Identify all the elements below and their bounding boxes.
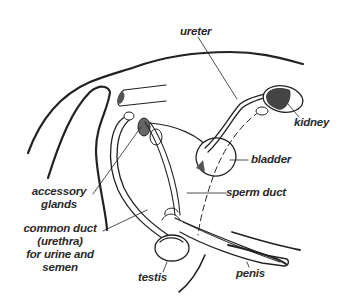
- label-testis: testis: [138, 271, 167, 284]
- label-ureter: ureter: [180, 25, 211, 38]
- rectum: [118, 85, 166, 106]
- accessory-gland-1: [124, 112, 134, 120]
- label-penis: penis: [236, 267, 265, 280]
- label-common-duct: common duct (urethra) for urine and seme…: [18, 222, 102, 274]
- label-sperm-duct: sperm duct: [226, 186, 286, 199]
- bladder: [191, 132, 242, 181]
- label-bladder: bladder: [251, 153, 291, 166]
- label-kidney: kidney: [294, 116, 329, 129]
- body-outline-back: [28, 52, 303, 153]
- label-accessory-glands: accessory glands: [20, 185, 98, 211]
- hind-leg-contour: [179, 255, 205, 292]
- testis: [155, 235, 189, 261]
